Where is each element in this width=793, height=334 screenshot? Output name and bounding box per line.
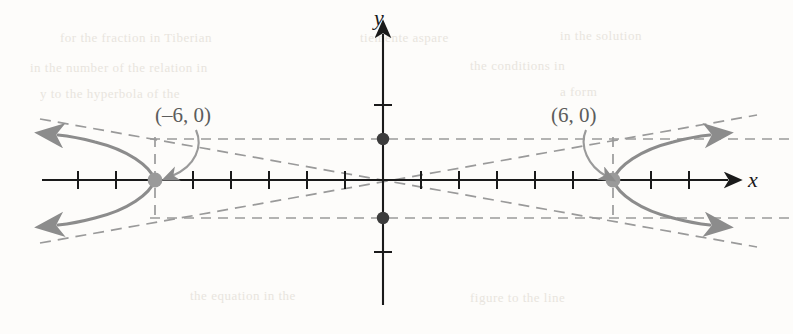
vertex-dot-left xyxy=(148,173,163,188)
hyperbola-figure: for the fraction in Tiberian tiemente as… xyxy=(0,0,793,334)
vertex-labels: (–6, 0) (6, 0) xyxy=(155,103,597,127)
auxiliary-rectangle xyxy=(150,137,793,220)
leader-arrow-right-vertex xyxy=(584,130,606,176)
covertex-dot-upper xyxy=(377,133,389,145)
ghost-line: tiemente aspare xyxy=(360,30,449,45)
leader-arrow-left-vertex xyxy=(172,130,199,176)
left-branch-upper xyxy=(58,135,155,180)
ghost-line: figure to the line xyxy=(470,290,565,305)
ghost-line: y to the hyperbola of the xyxy=(40,86,180,101)
ghost-line: the conditions in xyxy=(470,58,565,73)
covertex-dot-lower xyxy=(377,212,389,224)
right-branch-upper xyxy=(613,135,710,180)
right-vertex-label: (6, 0) xyxy=(551,103,597,127)
x-axis-label: x xyxy=(747,167,758,192)
y-axis-label: y xyxy=(372,5,384,30)
left-vertex-label: (–6, 0) xyxy=(155,103,211,127)
ghost-line: in the solution xyxy=(560,28,642,43)
vertex-dot-right xyxy=(606,173,621,188)
ghost-line: for the fraction in Tiberian xyxy=(60,30,212,45)
left-branch-lower xyxy=(58,180,155,225)
background-ghost-text: for the fraction in Tiberian tiemente as… xyxy=(30,28,642,305)
ghost-line: the equation in the xyxy=(190,288,296,303)
graph-canvas: for the fraction in Tiberian tiemente as… xyxy=(0,0,793,334)
y-axis: y xyxy=(372,5,392,305)
ghost-line: a form xyxy=(560,84,597,99)
ghost-line: in the number of the relation in xyxy=(30,60,208,75)
